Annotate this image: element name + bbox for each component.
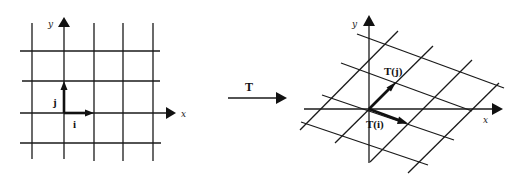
x-axis-arrowhead-icon [492, 103, 503, 115]
y-axis-arrowhead-icon [363, 15, 375, 26]
vector-Tj-label: T(j) [384, 65, 403, 78]
grid-line [322, 95, 454, 140]
y-axis-arrowhead-icon [58, 17, 70, 27]
x-axis-label: x [181, 109, 186, 119]
vector-Tj [369, 88, 390, 109]
grid-line [357, 34, 504, 88]
vector-j-arrowhead-icon [61, 81, 68, 90]
vector-Ti-label: T(i) [366, 118, 384, 131]
right-transformed-grid [300, 31, 504, 173]
vector-i-label: i [73, 118, 76, 130]
x-axis-label: x [483, 115, 488, 125]
grid-line [301, 122, 428, 165]
vector-j-label: j [52, 96, 57, 108]
transformation-diagram: y x j i T y x [0, 0, 520, 183]
left-standard-grid [20, 23, 161, 161]
x-axis-arrowhead-icon [166, 107, 176, 119]
grid-line [408, 83, 499, 173]
y-axis-label: y [351, 19, 358, 29]
transform-arrow: T [228, 80, 287, 104]
transform-arrowhead-icon [276, 92, 287, 104]
right-axes: y x [304, 15, 503, 163]
left-axes: y x [20, 17, 186, 159]
left-basis-vectors: j i [52, 81, 94, 130]
y-axis-label: y [47, 19, 54, 29]
vector-Ti-arrowhead-icon [397, 117, 408, 125]
vector-i-arrowhead-icon [85, 110, 94, 117]
grid-line [341, 63, 472, 111]
transform-label: T [245, 80, 253, 94]
